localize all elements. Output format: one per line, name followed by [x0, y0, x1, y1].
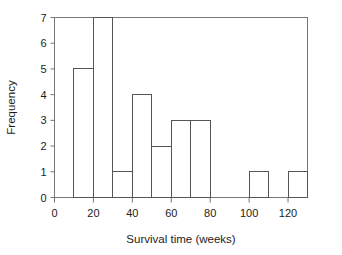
x-tick-label: 60 — [165, 207, 177, 219]
histogram-bar — [132, 95, 151, 198]
y-tick-label: 6 — [40, 37, 46, 49]
histogram-bar — [191, 120, 210, 197]
x-tick-label: 40 — [126, 207, 138, 219]
x-tick-label: 20 — [87, 207, 99, 219]
histogram-bar — [249, 172, 268, 198]
survival-time-histogram: 01234567 020406080100120 Survival time (… — [0, 0, 342, 255]
y-tick-label: 5 — [40, 63, 46, 75]
histogram-bar — [93, 18, 112, 198]
y-tick-label: 4 — [40, 89, 46, 101]
y-tick-label: 2 — [40, 140, 46, 152]
x-tick-label: 100 — [240, 207, 258, 219]
y-tick-label: 1 — [40, 166, 46, 178]
histogram-bar — [288, 172, 307, 198]
x-tick-label: 0 — [51, 207, 57, 219]
histogram-figure: 01234567 020406080100120 Survival time (… — [0, 0, 342, 255]
histogram-bar — [171, 120, 190, 197]
y-tick-label: 0 — [40, 192, 46, 204]
x-tick-label: 120 — [279, 207, 297, 219]
y-axis-title: Frequency — [5, 80, 17, 135]
histogram-bar — [74, 69, 93, 198]
x-tick-label: 80 — [204, 207, 216, 219]
y-tick-label: 3 — [40, 114, 46, 126]
histogram-bar — [113, 172, 132, 198]
y-tick-label: 7 — [40, 12, 46, 24]
histogram-bar — [152, 146, 171, 197]
x-axis-title: Survival time (weeks) — [126, 233, 235, 245]
